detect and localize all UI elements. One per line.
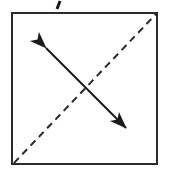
tick-mark — [57, 1, 60, 9]
geometry-figure — [0, 0, 170, 176]
dashed-diagonal-line — [14, 14, 156, 163]
figure-container — [0, 0, 170, 176]
